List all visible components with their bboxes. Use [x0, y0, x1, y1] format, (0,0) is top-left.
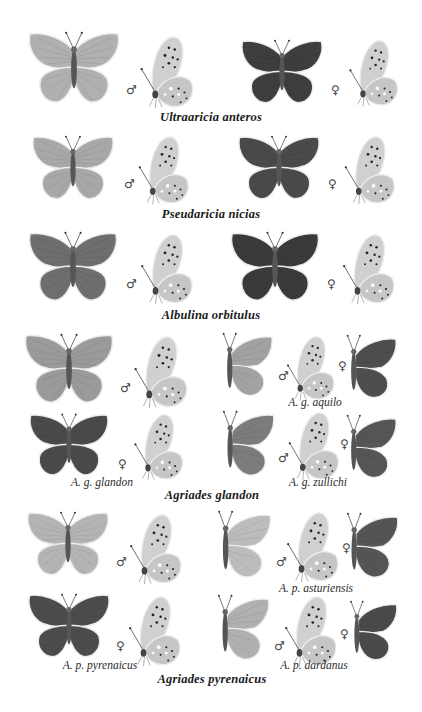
caption-a-p-pyrenaicus: A. p. pyrenaicus	[63, 659, 137, 671]
aquilo-male-upperside	[222, 332, 276, 402]
zullichi-female-upperside	[346, 414, 400, 484]
glandon-female-underside	[128, 412, 186, 484]
nicias-male-upperside	[26, 134, 120, 204]
caption-pseudaricia-nicias: Pseudaricia nicias	[162, 207, 260, 222]
aquilo-female-upperside	[346, 334, 400, 404]
caption-ultraaricia-anteros: Ultraaricia anteros	[160, 110, 262, 125]
caption-agriades-pyrenaicus: Agriades pyrenaicus	[157, 672, 266, 687]
glandon-male-upperside	[20, 332, 118, 408]
glandon-female-upperside	[24, 412, 114, 480]
caption-a-p-asturiensis: A. p. asturiensis	[279, 582, 353, 594]
dardanus-male-upperside	[216, 594, 274, 666]
pyrenaicus-male-upperside	[24, 510, 112, 580]
female-symbol: ♀	[327, 278, 336, 290]
orbitulus-female-upperside	[226, 230, 324, 306]
anteros-female-upperside	[234, 38, 330, 108]
asturiensis-male-underside	[282, 510, 340, 586]
orbitulus-female-underside	[336, 232, 398, 308]
anteros-male-upperside	[24, 30, 124, 108]
pyrenaicus-female-upperside	[24, 592, 114, 662]
glandon-male-underside	[128, 334, 190, 412]
butterfly-plate: ♂ ♀ Ultraaricia anteros ♂ ♀ Pseudaricia …	[0, 0, 422, 712]
zullichi-male-underside	[284, 410, 340, 484]
dardanus-female-upperside	[348, 600, 402, 666]
orbitulus-male-upperside	[24, 230, 122, 306]
caption-albulina-orbitulus: Albulina orbitulus	[162, 308, 260, 323]
nicias-female-underside	[338, 134, 398, 208]
anteros-female-underside	[342, 38, 402, 110]
caption-a-p-dardanus: A. p. dardanus	[280, 659, 347, 671]
asturiensis-male-upperside	[216, 510, 276, 584]
nicias-male-underside	[132, 134, 192, 208]
female-symbol: ♀	[331, 84, 340, 96]
asturiensis-female-upperside	[346, 512, 402, 584]
caption-a-g-aquilo: A. g. aquilo	[288, 396, 342, 408]
caption-a-g-zullichi: A. g. zullichi	[289, 476, 347, 488]
orbitulus-male-underside	[134, 232, 196, 308]
aquilo-male-underside	[282, 334, 336, 404]
female-symbol: ♀	[328, 178, 337, 190]
pyrenaicus-male-underside	[124, 512, 184, 588]
female-symbol: ♀	[118, 458, 127, 470]
anteros-male-underside	[134, 34, 196, 112]
zullichi-male-upperside	[222, 410, 278, 482]
nicias-female-upperside	[232, 134, 326, 204]
caption-agriades-glandon: Agriades glandon	[165, 488, 260, 503]
caption-a-g-glandon: A. g. glandon	[71, 476, 133, 488]
